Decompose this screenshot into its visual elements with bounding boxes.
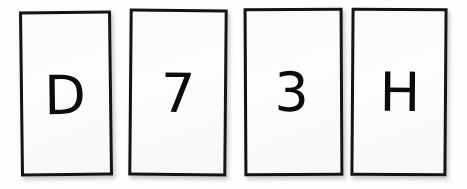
card-3-character: 3 — [274, 66, 309, 120]
card-4[interactable]: H — [350, 8, 447, 177]
card-1[interactable]: D — [19, 10, 113, 176]
card-1-character: D — [44, 68, 86, 123]
card-4-character: H — [379, 66, 420, 120]
card-row-scene: D 7 3 H — [0, 0, 467, 189]
card-2[interactable]: 7 — [128, 9, 227, 177]
card-3[interactable]: 3 — [244, 8, 344, 177]
card-2-character: 7 — [161, 66, 196, 120]
